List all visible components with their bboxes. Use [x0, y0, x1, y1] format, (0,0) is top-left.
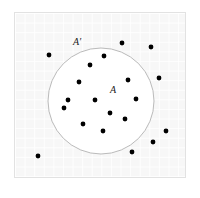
data-point [134, 97, 139, 102]
data-point [120, 41, 125, 46]
data-point [47, 53, 52, 58]
data-point [108, 111, 113, 116]
data-point [81, 122, 86, 127]
data-point [101, 129, 106, 134]
set-complement-label: A′ [73, 37, 81, 47]
data-point [130, 150, 135, 155]
data-point [157, 76, 162, 81]
data-point [123, 117, 128, 122]
set-a-circle [48, 48, 154, 154]
data-point [62, 106, 67, 111]
set-label: A [110, 85, 116, 95]
data-point [77, 80, 82, 85]
data-point [126, 78, 131, 83]
set-diagram-figure: A′ A [0, 0, 200, 198]
data-point [151, 140, 156, 145]
data-point [93, 98, 98, 103]
data-point [88, 63, 93, 68]
data-point [102, 54, 107, 59]
data-point [164, 129, 169, 134]
diagram-canvas [0, 0, 200, 198]
data-point [149, 45, 154, 50]
data-point [36, 154, 41, 159]
data-point [66, 98, 71, 103]
